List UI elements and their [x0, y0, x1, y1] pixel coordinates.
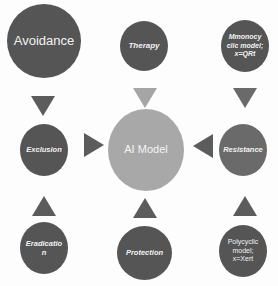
node-ai-model: AI Model — [108, 109, 184, 191]
arrow-up-polycyclic-to-resistance — [233, 196, 257, 216]
arrow-down-monocyclic-to-resistance — [233, 88, 257, 108]
node-eradication-line-2: n — [26, 248, 62, 257]
node-therapy: Therapy — [120, 21, 168, 71]
node-monocyclic-line-2: clic model; — [227, 42, 264, 51]
node-eradication-line-1: Eradicatio — [26, 239, 62, 248]
diagram-canvas: Avoidance Therapy Mmonocy clic model; x=… — [0, 0, 278, 286]
node-therapy-label: Therapy — [128, 41, 159, 51]
node-monocyclic-line-3: x=QRt — [227, 50, 264, 59]
node-polycyclic-model: Polycyclic model; x=Xert — [219, 225, 267, 277]
node-avoidance: Avoidance — [7, 4, 81, 78]
arrow-left-resistance-to-ai-model — [193, 134, 213, 158]
node-resistance: Resistance — [219, 124, 267, 176]
node-resistance-label: Resistance — [223, 145, 263, 154]
node-ai-model-label: AI Model — [124, 143, 167, 157]
arrow-down-therapy-to-ai-model — [133, 88, 157, 108]
arrow-down-avoidance-to-exclusion — [31, 96, 55, 116]
node-protection: Protection — [117, 226, 172, 280]
node-eradication: Eradicatio n — [20, 222, 68, 274]
node-monocyclic-model: Mmonocy clic model; x=QRt — [221, 20, 269, 72]
node-avoidance-label: Avoidance — [14, 33, 74, 49]
arrow-right-exclusion-to-ai-model — [84, 133, 104, 157]
node-exclusion-label: Exclusion — [26, 145, 61, 154]
node-monocyclic-line-1: Mmonocy — [227, 33, 264, 42]
node-exclusion: Exclusion — [20, 124, 68, 176]
node-polycyclic-line-1: Polycyclic — [228, 238, 259, 247]
node-polycyclic-line-2: model; — [228, 247, 259, 256]
arrow-up-protection-to-ai-model — [133, 198, 157, 218]
arrow-up-eradication-to-exclusion — [32, 196, 56, 216]
node-protection-label: Protection — [126, 248, 163, 257]
node-polycyclic-line-3: x=Xert — [228, 255, 259, 264]
